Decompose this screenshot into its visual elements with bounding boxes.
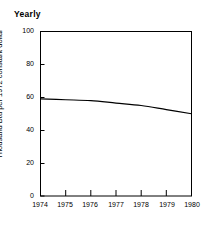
data-line-series xyxy=(41,99,192,114)
plot-area xyxy=(0,0,210,228)
x-axis-ticks xyxy=(41,190,192,196)
plot-frame xyxy=(41,32,192,197)
chart-figure: Yearly Thousand Btu per 1972 constant do… xyxy=(0,0,210,228)
y-axis-ticks xyxy=(41,32,45,197)
